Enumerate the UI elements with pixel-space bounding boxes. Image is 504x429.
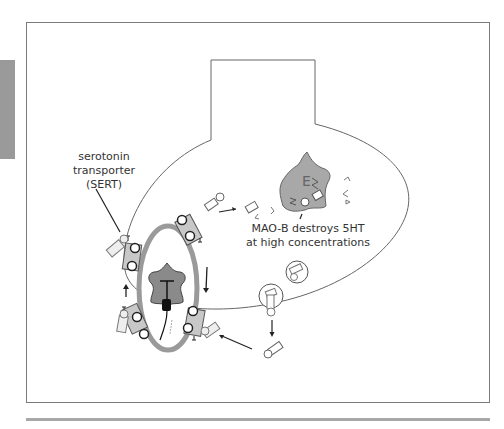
arrow-icon (206, 267, 207, 290)
serotonin-molecule (204, 193, 224, 211)
sert-transporter-top-left (106, 235, 141, 271)
sert-label-pointer (96, 189, 120, 232)
vesicle (286, 261, 308, 283)
receptor-ligand-block (162, 299, 171, 311)
mao-b-enzyme: E (280, 152, 330, 219)
serotonin-molecule (245, 201, 258, 213)
sert-label-line3: (SERT) (86, 178, 122, 191)
arrow-icon (222, 336, 252, 349)
sert-label-line1: serotonin (78, 150, 130, 163)
mao-label-line2: at high concentrations (246, 236, 370, 249)
enzyme-letter: E (302, 173, 311, 189)
arrowhead-icon (203, 288, 209, 293)
vesicle-fusing (259, 284, 283, 316)
arrowhead-icon (270, 332, 275, 337)
sert-label-line2: transporter (73, 164, 136, 177)
mao-label-pointer (300, 214, 302, 219)
serotonin-reuptake-diagram: E (0, 0, 504, 429)
arrowhead-icon (123, 284, 129, 289)
arrowhead-icon (232, 207, 236, 211)
serotonin-molecule (264, 342, 283, 358)
figure-frame (27, 23, 490, 403)
mao-label-line1: MAO-B destroys 5HT (252, 222, 365, 235)
